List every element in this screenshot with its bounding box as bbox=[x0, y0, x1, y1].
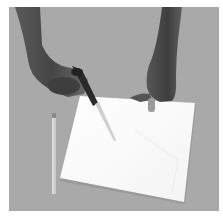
pencil bbox=[52, 113, 56, 194]
photo bbox=[9, 7, 219, 211]
